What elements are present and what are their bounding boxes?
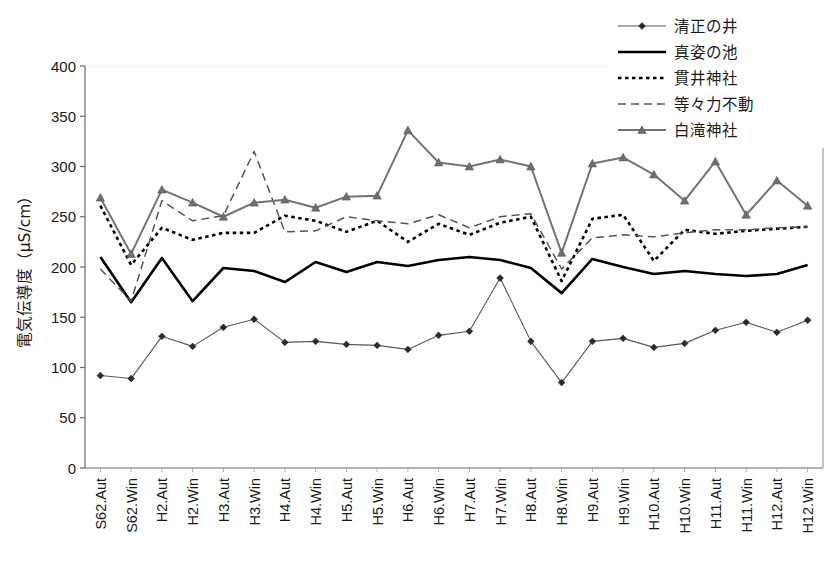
x-tick-label: H8.Aut (523, 478, 539, 522)
x-tick-label: S62.Aut (93, 478, 109, 530)
y-tick-label: 150 (51, 309, 76, 326)
legend-item-label: 真姿の池 (674, 44, 738, 62)
x-tick-label: H9.Win (616, 478, 632, 526)
x-tick-label: H9.Aut (585, 478, 601, 522)
y-tick-label: 50 (59, 409, 76, 426)
x-tick-label: H5.Win (370, 478, 386, 526)
y-tick-label: 400 (51, 58, 76, 75)
x-tick-label: H5.Aut (339, 478, 355, 522)
x-tick-label: H2.Aut (154, 478, 170, 522)
x-tick-label: H3.Aut (216, 478, 232, 522)
x-tick-label: H7.Win (493, 478, 509, 526)
legend-item-label: 白滝神社 (674, 122, 738, 140)
x-tick-label: H10.Win (677, 478, 693, 534)
x-tick-label: H12.Aut (769, 478, 785, 530)
x-tick-label: H4.Win (308, 478, 324, 526)
x-tick-label: H8.Win (554, 478, 570, 526)
x-tick-label: H6.Win (431, 478, 447, 526)
chart-container: 050100150200250300350400電気伝導度（μS/cm）S62.… (0, 0, 833, 563)
x-tick-label: H12.Win (800, 478, 816, 534)
x-tick-label: H4.Aut (277, 478, 293, 522)
chart-legend: 清正の井真姿の池貫井神社等々力不動白滝神社 (608, 10, 830, 148)
y-axis-title: 電気伝導度（μS/cm） (16, 188, 34, 349)
x-tick-label: H6.Aut (400, 478, 416, 522)
y-tick-label: 300 (51, 158, 76, 175)
x-tick-label: H7.Aut (462, 478, 478, 522)
x-tick-label: S62.Win (124, 478, 140, 533)
y-tick-label: 250 (51, 208, 76, 225)
y-tick-label: 200 (51, 259, 76, 276)
y-tick-label: 350 (51, 108, 76, 125)
x-tick-label: H3.Win (247, 478, 263, 526)
y-tick-label: 0 (68, 460, 76, 477)
line-chart: 050100150200250300350400電気伝導度（μS/cm）S62.… (0, 0, 833, 563)
legend-item-label: 貫井神社 (674, 70, 738, 88)
x-tick-label: H11.Win (739, 478, 755, 533)
x-tick-label: H11.Aut (708, 478, 724, 529)
y-tick-label: 100 (51, 359, 76, 376)
x-tick-label: H2.Win (185, 478, 201, 526)
x-tick-label: H10.Aut (646, 478, 662, 530)
legend-item-label: 等々力不動 (674, 96, 754, 114)
legend-item-label: 清正の井 (674, 18, 738, 36)
